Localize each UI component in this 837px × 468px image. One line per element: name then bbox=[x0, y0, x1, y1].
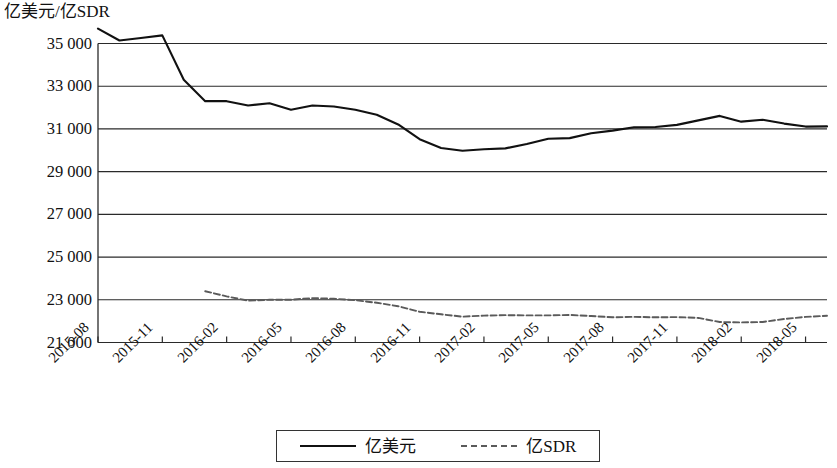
chart-legend: 亿美元 亿SDR bbox=[276, 430, 600, 462]
legend-item-usd: 亿美元 bbox=[300, 438, 416, 455]
gridlines bbox=[98, 44, 827, 343]
legend-item-sdr: 亿SDR bbox=[461, 438, 576, 455]
legend-line-swatch-solid bbox=[300, 445, 356, 447]
chart-plot-area bbox=[0, 0, 837, 468]
legend-line-swatch-dashed bbox=[461, 445, 517, 447]
series-lines bbox=[98, 29, 827, 323]
legend-label-usd: 亿美元 bbox=[365, 438, 416, 455]
legend-label-sdr: 亿SDR bbox=[526, 438, 576, 455]
series-line-sdr bbox=[205, 291, 827, 322]
chart-container: 亿美元/亿SDR 35 00033 00031 00029 00027 0002… bbox=[0, 0, 837, 468]
series-line-usd bbox=[98, 29, 827, 151]
